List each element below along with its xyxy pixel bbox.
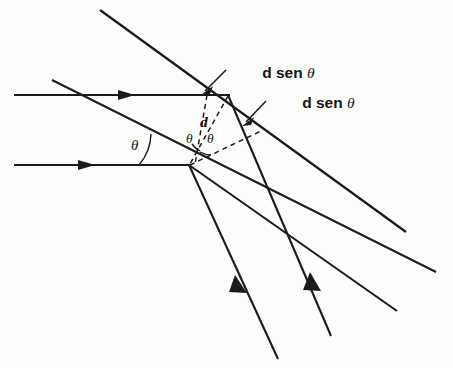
label-slit-spacing-d: d bbox=[200, 113, 208, 130]
incident-rays-group bbox=[14, 90, 230, 170]
label-angle-inner-right: θ bbox=[207, 131, 214, 146]
leader-line-lower-label bbox=[246, 101, 266, 122]
incident-ray-lower-arrowhead bbox=[78, 160, 95, 170]
diffracted-ray-from-upper-vertex bbox=[228, 95, 331, 336]
label-path-difference-lower-text: d sen bbox=[302, 94, 347, 111]
diagram-canvas: d sen θ d sen θ d θ θ θ bbox=[0, 0, 453, 368]
label-path-difference-lower-symbol: θ bbox=[347, 94, 355, 111]
label-angle-inner-left: θ bbox=[186, 131, 193, 146]
label-path-difference-upper-symbol: θ bbox=[307, 64, 315, 81]
label-path-difference-upper: d sen θ bbox=[232, 64, 336, 81]
label-path-difference-upper-text: d sen bbox=[262, 64, 307, 81]
optics-diagram-figure: d sen θ d sen θ d θ θ θ bbox=[0, 0, 453, 368]
incident-ray-upper-arrowhead bbox=[118, 90, 135, 100]
wavefront-line-upper bbox=[100, 10, 406, 232]
label-path-difference-lower: d sen θ bbox=[272, 94, 376, 111]
leader-line-upper-label bbox=[205, 70, 226, 91]
wavefront-line-lower bbox=[52, 80, 436, 272]
diffracted-ray-from-lower-vertex-steep bbox=[189, 165, 278, 359]
label-angle-incidence: θ bbox=[131, 137, 139, 153]
angle-arc-incidence bbox=[139, 134, 151, 165]
dashed-path-difference-segment bbox=[190, 130, 263, 165]
diffracted-rays-group bbox=[189, 95, 397, 359]
dashed-slit-separation-segment bbox=[190, 96, 228, 164]
wavefront-group bbox=[52, 10, 436, 272]
